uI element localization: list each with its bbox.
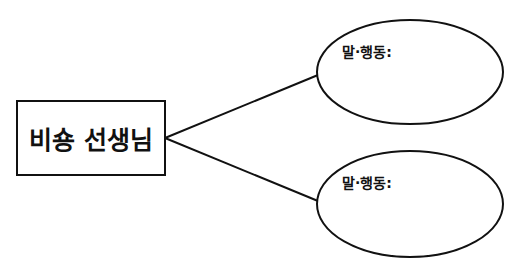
branch-ellipse-2 bbox=[317, 151, 503, 257]
branch-2-label: 말·행동: bbox=[342, 172, 392, 192]
center-node-box: 비숑 선생님 bbox=[16, 100, 166, 176]
branch-1-label: 말·행동: bbox=[342, 41, 392, 61]
connector-line-top bbox=[165, 75, 318, 138]
center-node-label: 비숑 선생님 bbox=[29, 120, 153, 156]
connector-line-bottom bbox=[165, 138, 318, 201]
branch-ellipse-1 bbox=[317, 20, 503, 124]
